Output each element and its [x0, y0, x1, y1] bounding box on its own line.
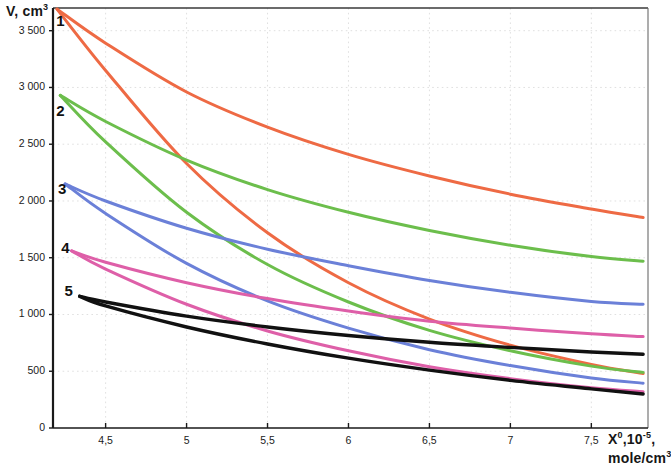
y-axis-title: V, cm3 [6, 2, 48, 19]
y-tick-label: 2 500 [3, 137, 45, 149]
y-tick-label: 500 [3, 364, 45, 376]
x-axis-title-line2: mole/cm3 [608, 447, 671, 466]
x-tick-label: 7 [490, 434, 530, 446]
x-tick-label: 6,5 [409, 434, 449, 446]
y-tick-label: 2 000 [3, 194, 45, 206]
curve-label-2: 2 [56, 102, 64, 119]
curve-label-1: 1 [56, 12, 64, 29]
x-axis-title: X0,10-5, mole/cm3 [608, 428, 671, 465]
y-tick-label: 3 500 [3, 24, 45, 36]
curve-layer [57, 9, 643, 394]
curve-5-upper [80, 296, 643, 354]
x-tick-label: 6 [328, 434, 368, 446]
y-tick-label: 3 000 [3, 80, 45, 92]
x-tick-label: 4,5 [86, 434, 126, 446]
x-tick-label: 5,5 [248, 434, 288, 446]
axis-lines [53, 8, 648, 428]
curve-label-3: 3 [58, 180, 66, 197]
curve-1-lower [57, 9, 643, 373]
y-tick-label: 0 [3, 421, 45, 433]
curve-1-upper [57, 9, 643, 217]
x-tick-label: 5 [167, 434, 207, 446]
gridlines [53, 8, 648, 428]
curve-label-4: 4 [61, 239, 69, 256]
curve-label-5: 5 [64, 282, 72, 299]
y-tick-label: 1 000 [3, 307, 45, 319]
y-tick-label: 1 500 [3, 251, 45, 263]
x-axis-title-line1: X0,10-5, [608, 428, 671, 447]
x-tick-label: 7,5 [571, 434, 611, 446]
